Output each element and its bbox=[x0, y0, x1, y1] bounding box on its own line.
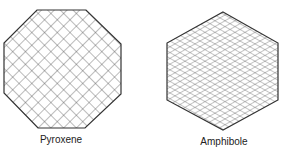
amphibole-label: Amphibole bbox=[200, 136, 247, 147]
amphibole-hexagon bbox=[167, 12, 278, 130]
pyroxene-octagon bbox=[4, 10, 121, 128]
pyroxene-figure bbox=[4, 10, 121, 128]
amphibole-figure bbox=[167, 12, 278, 130]
cleavage-diagram bbox=[0, 0, 283, 155]
pyroxene-label: Pyroxene bbox=[40, 134, 82, 145]
